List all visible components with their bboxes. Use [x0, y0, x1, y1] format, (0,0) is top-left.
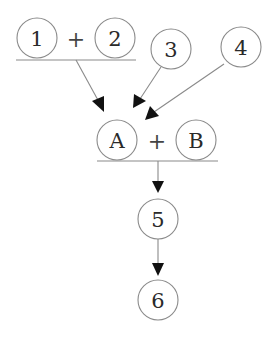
node-A-label: A	[108, 129, 125, 153]
edge-line	[76, 60, 99, 102]
node-2-label: 2	[108, 27, 121, 51]
node-1: 1	[17, 18, 57, 58]
node-6: 6	[138, 280, 178, 320]
arrowhead-icon	[145, 106, 159, 120]
node-3: 3	[151, 29, 191, 69]
node-4: 4	[221, 27, 261, 67]
node-5-label: 5	[151, 208, 164, 232]
diagram-canvas: 1 + 2 3 4 A + B	[0, 0, 272, 339]
edge-group12-to-AB	[76, 60, 104, 112]
edge-line	[140, 67, 161, 99]
arrowhead-icon	[152, 181, 164, 193]
edge-line	[154, 64, 224, 112]
edge-3-to-AB	[133, 67, 161, 108]
node-4-label: 4	[234, 36, 247, 60]
edge-AB-to-5	[152, 161, 164, 193]
arrowhead-icon	[92, 96, 104, 112]
group-A-B: A + B	[97, 120, 218, 161]
node-6-label: 6	[151, 289, 164, 313]
operator-plus-mid: +	[148, 129, 166, 154]
arrowhead-icon	[133, 94, 146, 108]
node-2: 2	[95, 18, 135, 58]
node-B-label: B	[188, 129, 203, 153]
node-3-label: 3	[164, 38, 177, 62]
arrowhead-icon	[152, 263, 164, 276]
node-B: B	[176, 120, 216, 160]
node-5: 5	[138, 199, 178, 239]
node-1-label: 1	[30, 27, 43, 51]
operator-plus-top: +	[67, 27, 85, 52]
group-1-2: 1 + 2	[16, 18, 136, 60]
node-A: A	[97, 120, 137, 160]
edge-5-to-6	[152, 239, 164, 276]
